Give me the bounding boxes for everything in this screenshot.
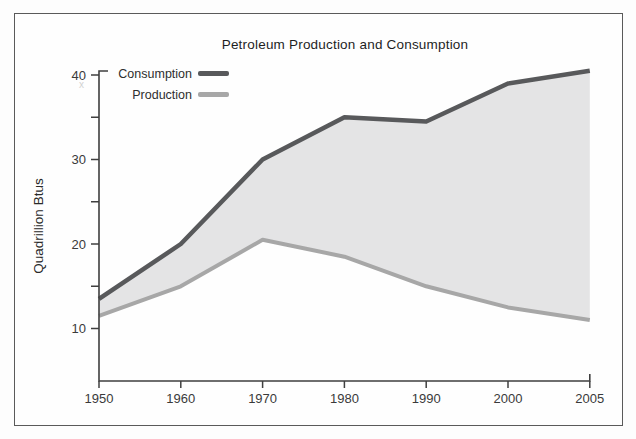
- x-tick-label: 1980: [330, 391, 359, 406]
- y-tick-label: 10: [72, 321, 86, 336]
- fill-between-area: [99, 71, 590, 320]
- y-tick-label: 40: [72, 68, 86, 83]
- figure-scan: Petroleum Production and Consumption Qua…: [0, 0, 636, 439]
- x-tick-label: 1960: [166, 391, 195, 406]
- x-tick-label: 1970: [248, 391, 277, 406]
- y-tick-label: 20: [72, 237, 86, 252]
- x-tick-label: 1950: [85, 391, 114, 406]
- y-tick-label: 30: [72, 152, 86, 167]
- x-tick-label: 2005: [575, 391, 604, 406]
- chart-canvas: 102030401950196019701980199020002005: [0, 0, 636, 439]
- x-tick-label: 2000: [494, 391, 523, 406]
- x-tick-label: 1990: [412, 391, 441, 406]
